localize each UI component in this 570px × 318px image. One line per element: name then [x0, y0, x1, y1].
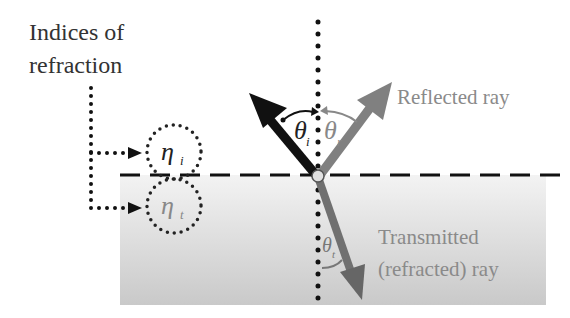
transmitted-label-line2: (refracted) ray — [378, 257, 499, 281]
reflected-ray-label: Reflected ray — [397, 85, 510, 109]
theta-r-symbol: θ — [324, 116, 337, 145]
theta-t-symbol: θ — [322, 234, 332, 256]
arrow-to-eta-i-icon — [128, 147, 142, 159]
incident-arrowhead-icon — [249, 93, 287, 128]
lower-medium — [120, 175, 546, 305]
eta-t-subscript: t — [180, 207, 184, 222]
refraction-diagram: Indices of refraction Reflected ray Tran… — [0, 0, 570, 318]
eta-i-circle — [147, 125, 201, 179]
title-line2: refraction — [29, 52, 122, 78]
eta-t-symbol: η — [161, 191, 174, 220]
eta-i-symbol: η — [161, 137, 174, 166]
title-line1: Indices of — [29, 19, 124, 45]
theta-i-subscript: i — [306, 134, 310, 149]
theta-r-arc-arrow-icon — [320, 106, 328, 115]
incidence-point — [312, 170, 324, 182]
transmitted-label-line1: Transmitted — [378, 225, 479, 249]
eta-i-subscript: i — [180, 153, 184, 168]
